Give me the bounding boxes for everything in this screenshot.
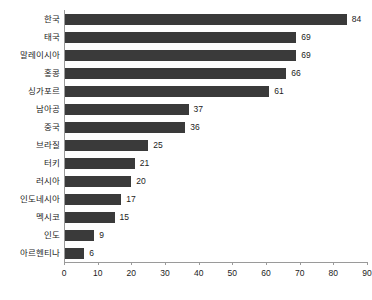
x-tick-label: 20 — [127, 268, 136, 278]
bar-value-label: 9 — [99, 230, 104, 241]
bar[interactable] — [65, 158, 135, 169]
bar-value-label: 69 — [301, 50, 310, 61]
x-tick-mark — [266, 262, 267, 265]
bar[interactable] — [65, 122, 185, 133]
bar[interactable] — [65, 248, 84, 259]
x-tick-mark — [333, 262, 334, 265]
bar-value-label: 61 — [274, 86, 283, 97]
category-label: 터키 — [44, 158, 60, 169]
bar[interactable] — [65, 176, 131, 187]
bar-value-label: 66 — [291, 68, 300, 79]
x-tick-mark — [300, 262, 301, 265]
x-tick-mark — [64, 262, 65, 265]
x-tick-label: 40 — [194, 268, 203, 278]
category-label: 중국 — [44, 122, 60, 133]
bar-value-label: 25 — [153, 140, 162, 151]
x-tick-mark — [165, 262, 166, 265]
x-tick-mark — [131, 262, 132, 265]
bar[interactable] — [65, 32, 296, 43]
category-label: 아르헨티나 — [20, 248, 60, 259]
bar[interactable] — [65, 194, 121, 205]
bar-value-label: 69 — [301, 32, 310, 43]
bar-value-label: 84 — [352, 14, 361, 25]
category-label: 태국 — [44, 32, 60, 43]
x-tick-label: 10 — [93, 268, 102, 278]
category-label: 홍콩 — [44, 68, 60, 79]
bar-value-label: 6 — [89, 248, 94, 259]
bar-value-label: 17 — [126, 194, 135, 205]
x-tick-mark — [232, 262, 233, 265]
y-axis-line — [64, 10, 65, 262]
x-tick-mark — [98, 262, 99, 265]
bar[interactable] — [65, 212, 115, 223]
bar-value-label: 21 — [140, 158, 149, 169]
category-label: 싱가포르 — [28, 86, 60, 97]
bar[interactable] — [65, 140, 148, 151]
x-tick-label: 0 — [62, 268, 67, 278]
bar[interactable] — [65, 230, 94, 241]
x-tick-label: 60 — [261, 268, 270, 278]
bar-value-label: 36 — [190, 122, 199, 133]
category-label: 멕시코 — [36, 212, 60, 223]
category-label: 한국 — [44, 14, 60, 25]
bar[interactable] — [65, 14, 347, 25]
bar[interactable] — [65, 50, 296, 61]
x-tick-label: 90 — [362, 268, 371, 278]
x-tick-label: 70 — [295, 268, 304, 278]
bar-value-label: 20 — [136, 176, 145, 187]
x-tick-label: 50 — [228, 268, 237, 278]
category-label: 인도 — [44, 230, 60, 241]
x-tick-label: 30 — [160, 268, 169, 278]
category-label: 인도네시아 — [20, 194, 60, 205]
bar-value-label: 37 — [194, 104, 203, 115]
bar-chart: 한국태국말레이시아홍콩싱가포르남아공중국브라질터키러시아인도네시아멕시코인도아르… — [0, 0, 372, 300]
x-axis-line — [64, 262, 367, 263]
bar[interactable] — [65, 68, 286, 79]
bar[interactable] — [65, 104, 189, 115]
plot-area: 84696966613736252120171596 0102030405060… — [64, 10, 367, 262]
bar-value-label: 15 — [120, 212, 129, 223]
category-label: 남아공 — [36, 104, 60, 115]
category-label: 말레이시아 — [20, 50, 60, 61]
category-label: 러시아 — [36, 176, 60, 187]
bar[interactable] — [65, 86, 269, 97]
x-tick-label: 80 — [329, 268, 338, 278]
category-label: 브라질 — [36, 140, 60, 151]
x-tick-mark — [199, 262, 200, 265]
x-tick-mark — [367, 262, 368, 265]
